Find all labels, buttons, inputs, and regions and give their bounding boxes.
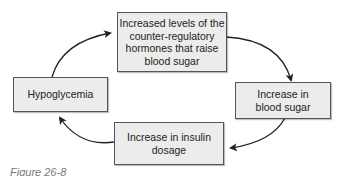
node-counter-regulatory-hormones: Increased levels of the counter-regulato… <box>117 12 227 72</box>
node-increase-insulin-dosage: Increase in insulin dosage <box>114 122 224 165</box>
arrow-insulin-to-hypo <box>60 118 114 143</box>
node-label: Increase in insulin dosage <box>115 131 223 156</box>
arrow-hypo-to-hormones <box>52 33 110 77</box>
node-increase-blood-sugar: Increase in blood sugar <box>235 82 331 119</box>
node-label: Hypoglycemia <box>28 88 94 101</box>
figure-caption: Figure 26-8 <box>10 166 66 176</box>
node-label: Increase in blood sugar <box>236 88 330 113</box>
arrow-bloodsugar-to-insulin <box>231 118 285 148</box>
arrow-hormones-to-bloodsugar <box>226 37 291 80</box>
node-label: Increased levels of the counter-regulato… <box>118 17 226 67</box>
node-hypoglycemia: Hypoglycemia <box>13 77 108 112</box>
